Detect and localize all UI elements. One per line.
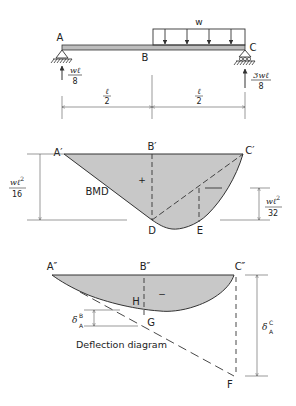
defl-label-G: G [147,317,155,328]
defl-label-F: F [227,379,233,390]
defl-title: Deflection diagram [76,339,167,350]
distributed-load [153,29,245,45]
bmd-sign: + [138,175,146,185]
label-C: C [250,42,257,53]
delta-C-sup: C [269,319,273,326]
defl-label-H: H [132,296,140,307]
pin-support-icon [51,50,72,63]
defl-label-C: C″ [235,261,246,272]
label-B: B [142,52,149,63]
span-right-num: ℓ [197,87,201,96]
span-right-den: 2 [196,97,201,106]
delta-B-sup: B [79,312,83,319]
bmd-label-E: E [197,225,203,236]
delta-B-sub: A [79,322,84,329]
delta-B-label: δ [72,315,77,325]
beam-diagram-figure: w A B C wℓ 8 3wℓ 8 [0,0,296,406]
bmd-dim-right-den: 32 [268,209,278,218]
bmd-label-D: D [148,225,156,236]
defl-sign: − [158,289,166,299]
delta-C-sub: A [269,328,274,335]
bmd-section: A′ B′ C′ D E BMD + wℓ2 16 wℓ2 32 [9,141,282,236]
deflection-area [52,275,234,311]
beam [62,45,245,50]
bmd-dim-left-den: 16 [12,190,22,199]
span-left-num: ℓ [105,87,109,96]
bmd-label-B: B′ [147,141,157,152]
reaction-C-num: 3wℓ [253,71,269,80]
reaction-A-num: wℓ [70,66,81,75]
beam-section: w A B C wℓ 8 3wℓ 8 [51,17,271,119]
load-label: w [195,17,202,27]
defl-label-A: A″ [47,261,58,272]
bmd-label-C: C′ [245,145,255,156]
span-dimensions [62,75,245,119]
delta-C-label: δ [262,322,267,332]
reaction-C-den: 8 [258,82,263,91]
bmd-label-A: A′ [53,147,63,158]
label-A: A [57,32,64,43]
defl-label-B: B″ [140,261,151,272]
reaction-A-den: 8 [72,77,77,86]
deflection-section: A″ B″ C″ H G F − Deflection diagram δ B … [47,261,274,390]
bmd-dim-left-num: wℓ2 [10,175,24,187]
bmd-title: BMD [85,186,108,197]
bmd-dim-right-num: wℓ2 [266,194,280,206]
span-left-den: 2 [104,97,109,106]
